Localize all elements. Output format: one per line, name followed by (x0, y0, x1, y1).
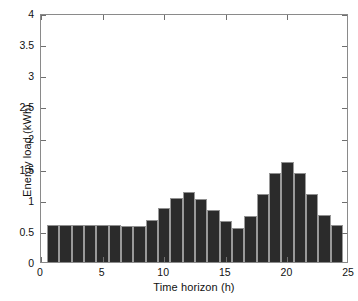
x-tick-mark (164, 257, 165, 262)
y-tick-mark (342, 15, 347, 16)
x-tick-label: 20 (271, 266, 301, 278)
y-axis-label: Energy load (kWh) (18, 0, 36, 301)
y-tick-mark (41, 46, 46, 47)
bar (109, 225, 121, 262)
bar (84, 225, 96, 262)
x-tick-label: 10 (148, 266, 178, 278)
y-tick-mark (41, 77, 46, 78)
bar (72, 225, 84, 262)
bar-series (41, 15, 347, 262)
x-tick-label: 5 (87, 266, 117, 278)
y-tick-mark (41, 202, 46, 203)
bar (269, 173, 281, 262)
bar (244, 216, 256, 262)
y-tick-mark (41, 140, 46, 141)
bar (47, 225, 59, 262)
plot-area (40, 14, 348, 263)
bar (281, 162, 293, 262)
energy-load-bar-chart: Energy load (kWh) 00.511.522.533.5405101… (0, 0, 358, 301)
bar (59, 225, 71, 262)
x-tick-mark (41, 257, 42, 262)
bar (318, 215, 330, 262)
x-tick-mark (226, 257, 227, 262)
bar (306, 194, 318, 262)
x-tick-mark (226, 15, 227, 20)
x-tick-mark (287, 257, 288, 262)
bar (146, 220, 158, 262)
bar (121, 226, 133, 262)
y-tick-mark (342, 171, 347, 172)
y-tick-mark (41, 171, 46, 172)
bar (183, 192, 195, 262)
bar (170, 198, 182, 262)
y-tick-mark (342, 46, 347, 47)
bar (207, 210, 219, 262)
x-axis-label: Time horizon (h) (40, 281, 348, 293)
x-tick-mark (287, 15, 288, 20)
bar (133, 226, 145, 262)
x-tick-mark (164, 15, 165, 20)
y-tick-mark (342, 108, 347, 109)
x-tick-label: 15 (210, 266, 240, 278)
x-tick-mark (103, 257, 104, 262)
x-tick-mark (103, 15, 104, 20)
y-tick-mark (342, 233, 347, 234)
x-tick-label: 25 (333, 266, 358, 278)
bar (220, 221, 232, 262)
bar (294, 173, 306, 262)
y-tick-mark (342, 77, 347, 78)
bar (257, 194, 269, 262)
bar (331, 225, 343, 262)
bar (232, 228, 244, 262)
y-tick-mark (342, 202, 347, 203)
y-tick-mark (342, 140, 347, 141)
x-tick-mark (41, 15, 42, 20)
y-tick-mark (41, 233, 46, 234)
bar (195, 199, 207, 262)
bar (158, 208, 170, 262)
y-tick-mark (41, 108, 46, 109)
